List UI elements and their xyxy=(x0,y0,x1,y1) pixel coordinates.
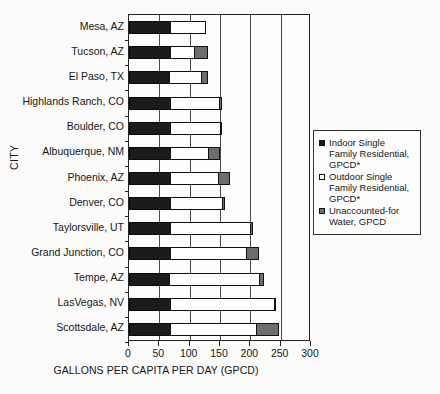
bar-stack xyxy=(129,222,253,235)
y-axis-tick xyxy=(125,116,129,117)
y-axis-category-labels: Mesa, AZTucson, AZEl Paso, TXHighlands R… xyxy=(0,14,124,341)
bar-stack xyxy=(129,247,259,260)
y-axis-category-label: El Paso, TX xyxy=(0,71,124,82)
y-axis-tick xyxy=(125,267,129,268)
x-axis-title-text: GALLONS PER CAPITA PER DAY (GPCD) xyxy=(53,364,258,376)
y-axis-tick xyxy=(125,65,129,66)
bar-segment xyxy=(256,323,279,336)
bar-stack xyxy=(129,298,276,311)
x-axis-tick-labels: 050100150200250300 xyxy=(100,347,340,361)
bar-segment xyxy=(129,71,170,84)
y-axis-tick xyxy=(125,292,129,293)
legend-item: Unaccounted-for Water, GPCD xyxy=(319,205,415,227)
bar-segment xyxy=(170,172,219,185)
bar-segment xyxy=(222,197,225,210)
y-axis-category-label: Denver, CO xyxy=(0,197,124,208)
bar-segment xyxy=(208,147,221,160)
x-axis-tick xyxy=(249,341,250,346)
legend-item: Indoor Single Family Residential, GPCD* xyxy=(319,137,415,170)
bar-segment xyxy=(129,273,170,286)
bar-segment xyxy=(170,21,205,34)
y-axis-category-label: Mesa, AZ xyxy=(0,21,124,32)
gridline xyxy=(281,15,282,340)
y-axis-tick xyxy=(125,241,129,242)
x-axis-tick xyxy=(219,341,220,346)
y-axis-category-label: Taylorsville, UT xyxy=(0,222,124,233)
y-axis-category-label: Tempe, AZ xyxy=(0,272,124,283)
bar-segment xyxy=(129,21,171,34)
bar-stack xyxy=(129,46,208,59)
bar-segment xyxy=(170,247,247,260)
bar-segment xyxy=(170,298,275,311)
x-axis-tick-label: 150 xyxy=(210,347,228,359)
bar-segment xyxy=(129,247,171,260)
legend-item-label: Unaccounted-for Water, GPCD xyxy=(329,205,415,227)
y-axis-category-label: Scottsdale, AZ xyxy=(0,322,124,333)
bar-segment xyxy=(129,46,171,59)
x-axis-tick-label: 50 xyxy=(152,347,164,359)
y-axis-tick xyxy=(125,216,129,217)
bar-segment xyxy=(218,172,230,185)
x-axis-tick xyxy=(128,341,129,346)
legend-swatch-indoor-icon xyxy=(319,140,325,146)
x-axis-tick xyxy=(280,341,281,346)
legend-item-label: Indoor Single Family Residential, GPCD* xyxy=(329,137,415,170)
x-axis-tick-label: 100 xyxy=(180,347,198,359)
x-axis-tick-label: 300 xyxy=(301,347,319,359)
y-axis-tick xyxy=(125,90,129,91)
bar-stack xyxy=(129,71,208,84)
y-axis-category-label: Grand Junction, CO xyxy=(0,247,124,258)
legend-swatch-unaccounted-icon xyxy=(319,208,325,214)
y-axis-category-label: Tucson, AZ xyxy=(0,46,124,57)
bar-segment xyxy=(170,122,221,135)
x-axis-tick xyxy=(310,341,311,346)
y-axis-category-label: Highlands Ranch, CO xyxy=(0,96,124,107)
legend-item: Outdoor Single Family Residential, GPCD* xyxy=(319,171,415,204)
bar-segment xyxy=(170,97,220,110)
bar-segment xyxy=(129,172,171,185)
bar-segment xyxy=(170,197,223,210)
bar-stack xyxy=(129,197,225,210)
y-axis-category-label: Albuquerque, NM xyxy=(0,146,124,157)
y-axis-category-label: Boulder, CO xyxy=(0,121,124,132)
y-axis-category-label: Phoenix, AZ xyxy=(0,172,124,183)
x-axis-title: GALLONS PER CAPITA PER DAY (GPCD) xyxy=(0,364,440,376)
legend-swatch-outdoor-icon xyxy=(319,174,325,180)
y-axis-tick xyxy=(125,40,129,41)
legend-item-label: Outdoor Single Family Residential, GPCD* xyxy=(329,171,415,204)
x-axis-tick-label: 200 xyxy=(241,347,259,359)
bar-segment xyxy=(129,197,171,210)
bar-segment xyxy=(250,222,252,235)
x-axis-tick-label: 250 xyxy=(271,347,289,359)
bar-stack xyxy=(129,172,230,185)
bar-segment xyxy=(170,222,251,235)
bar-segment xyxy=(129,298,171,311)
bar-segment xyxy=(201,71,208,84)
bar-segment xyxy=(129,222,171,235)
x-axis-tick xyxy=(158,341,159,346)
y-axis-tick xyxy=(125,141,129,142)
plot-area xyxy=(128,14,310,341)
bar-segment xyxy=(219,97,222,110)
x-axis-tick-label: 0 xyxy=(125,347,131,359)
bar-segment xyxy=(246,247,258,260)
bar-segment xyxy=(194,46,208,59)
bar-segment xyxy=(259,273,264,286)
bar-segment xyxy=(170,323,256,336)
chart-legend: Indoor Single Family Residential, GPCD*O… xyxy=(313,130,421,235)
y-axis-tick xyxy=(125,317,129,318)
bar-stack xyxy=(129,147,220,160)
bar-stack xyxy=(129,97,222,110)
bar-stack xyxy=(129,273,264,286)
bar-segment xyxy=(274,298,276,311)
gridline xyxy=(250,15,251,340)
bar-stack xyxy=(129,21,206,34)
chart-figure: CITY Mesa, AZTucson, AZEl Paso, TXHighla… xyxy=(0,0,440,394)
bar-segment xyxy=(169,71,202,84)
bar-segment xyxy=(169,273,260,286)
bar-segment xyxy=(129,147,171,160)
bar-segment xyxy=(129,122,171,135)
bar-segment xyxy=(170,147,208,160)
x-axis-tick xyxy=(189,341,190,346)
bar-segment xyxy=(129,97,171,110)
